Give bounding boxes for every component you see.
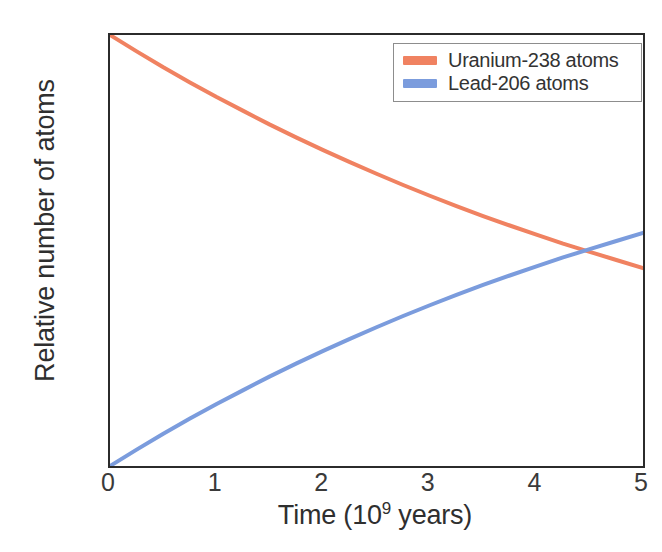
legend-item[interactable]: Lead-206 atoms	[403, 72, 632, 95]
x-tick-label: 2	[291, 468, 351, 497]
legend-color-swatch	[403, 56, 437, 65]
legend-label: Lead-206 atoms	[448, 72, 588, 95]
legend-color-swatch	[403, 79, 437, 88]
x-axis-title: Time (109 years)	[108, 500, 642, 531]
x-tick-label: 3	[398, 468, 458, 497]
chart-legend: Uranium-238 atomsLead-206 atoms	[393, 43, 642, 102]
chart-figure: Relative number of atoms 0.00.20.40.60.8…	[0, 0, 662, 552]
legend-item[interactable]: Uranium-238 atoms	[403, 49, 632, 72]
x-tick-label: 0	[78, 468, 138, 497]
series-line-lead-206	[110, 233, 643, 466]
legend-label: Uranium-238 atoms	[448, 49, 619, 72]
x-tick-label: 5	[611, 468, 662, 497]
x-axis-title-base: Time (10	[278, 500, 382, 530]
x-tick-label: 4	[504, 468, 564, 497]
x-axis-title-tail: years)	[391, 500, 472, 530]
x-tick-label: 1	[185, 468, 245, 497]
y-axis-title: Relative number of atoms	[30, 21, 61, 441]
x-axis-title-exponent: 9	[382, 499, 391, 518]
